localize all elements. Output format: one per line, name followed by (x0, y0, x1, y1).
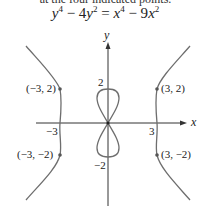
x-axis-label: x (191, 115, 196, 130)
point-neg3-neg2 (58, 153, 62, 157)
label-point-neg3-2: (−3, 2) (26, 82, 56, 94)
origin-point (106, 121, 109, 124)
tick-x-3: 3 (149, 125, 155, 137)
label-point-3-neg2: (3, −2) (161, 148, 191, 160)
x-axis-arrow-icon (180, 121, 187, 126)
y-axis-label: y (104, 28, 109, 43)
tick-y-neg2: −2 (94, 159, 106, 171)
tick-x-neg3: −3 (46, 125, 58, 137)
point-3-neg2 (155, 153, 159, 157)
tick-y-2: 2 (98, 76, 104, 88)
y-axis-arrow-icon (106, 42, 111, 49)
label-point-neg3-neg2: (−3, −2) (17, 148, 53, 160)
point-neg3-2 (58, 87, 62, 91)
point-3-2 (155, 87, 159, 91)
label-point-3-2: (3, 2) (161, 82, 185, 94)
